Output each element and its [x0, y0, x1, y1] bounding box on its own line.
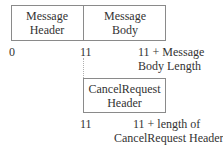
offset-0: 0: [9, 45, 15, 59]
offset-end-bottom-line2: CancelRequest Header: [114, 131, 223, 145]
message-header-line2: Header: [30, 23, 65, 37]
offset-end-top-line1: 11 + Message: [138, 45, 204, 59]
offset-11-bottom: 11: [80, 117, 92, 131]
cancelrequest-header-line1: CancelRequest: [89, 82, 161, 96]
cancelrequest-header-line2: Header: [107, 96, 142, 110]
message-body-cell: Message Body: [84, 5, 166, 41]
offset-11-top: 11: [80, 45, 92, 59]
message-body-line1: Message: [104, 9, 146, 23]
cancelrequest-header-box: CancelRequest Header: [83, 78, 166, 113]
message-header-cell: Message Header: [11, 5, 83, 41]
alignment-dotted-line: [83, 58, 84, 78]
offset-end-bottom-line1: 11 + length of: [133, 117, 200, 131]
offset-end-top-line2: Body Length: [138, 59, 201, 73]
message-body-line2: Body: [112, 23, 138, 37]
message-header-line1: Message: [26, 9, 68, 23]
